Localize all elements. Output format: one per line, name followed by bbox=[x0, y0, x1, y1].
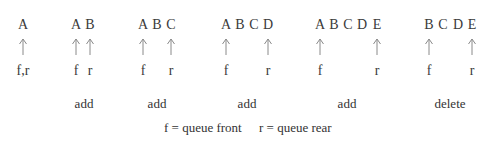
front-rear-pointer-label: f,r bbox=[17, 64, 30, 78]
up-arrow-icon bbox=[166, 38, 176, 56]
front-pointer-label: f bbox=[427, 64, 432, 78]
front-pointer-label: f bbox=[318, 64, 323, 78]
up-arrow-icon bbox=[221, 38, 231, 56]
queue-element: A bbox=[315, 18, 325, 32]
up-arrow-icon bbox=[424, 38, 434, 56]
queue-element: B bbox=[152, 18, 161, 32]
queue-element: C bbox=[249, 18, 258, 32]
queue-element: C bbox=[166, 18, 175, 32]
up-arrow-icon bbox=[85, 38, 95, 56]
operation-label: add bbox=[75, 97, 94, 110]
up-arrow-icon bbox=[372, 38, 382, 56]
queue-element: A bbox=[18, 18, 28, 32]
operation-label: add bbox=[238, 97, 257, 110]
up-arrow-icon bbox=[263, 38, 273, 56]
operation-label: delete bbox=[434, 97, 465, 110]
queue-element: B bbox=[329, 18, 338, 32]
front-pointer-label: f bbox=[224, 64, 229, 78]
rear-pointer-label: r bbox=[88, 64, 93, 78]
queue-element: E bbox=[468, 18, 477, 32]
queue-element: C bbox=[343, 18, 352, 32]
queue-element: B bbox=[85, 18, 94, 32]
queue-element: D bbox=[453, 18, 463, 32]
front-pointer-label: f bbox=[74, 64, 79, 78]
queue-element: A bbox=[71, 18, 81, 32]
legend-rear: r = queue rear bbox=[259, 121, 332, 134]
up-arrow-icon bbox=[71, 38, 81, 56]
legend-front: f = queue front bbox=[164, 121, 242, 134]
front-pointer-label: f bbox=[141, 64, 146, 78]
operation-label: add bbox=[148, 97, 167, 110]
up-arrow-icon bbox=[138, 38, 148, 56]
up-arrow-icon bbox=[18, 38, 28, 56]
rear-pointer-label: r bbox=[266, 64, 271, 78]
queue-element: D bbox=[263, 18, 273, 32]
rear-pointer-label: r bbox=[375, 64, 380, 78]
queue-element: B bbox=[235, 18, 244, 32]
queue-element: D bbox=[357, 18, 367, 32]
queue-element: A bbox=[138, 18, 148, 32]
queue-element: E bbox=[373, 18, 382, 32]
rear-pointer-label: r bbox=[470, 64, 475, 78]
queue-element: A bbox=[221, 18, 231, 32]
queue-element: B bbox=[424, 18, 433, 32]
up-arrow-icon bbox=[467, 38, 477, 56]
queue-element: C bbox=[438, 18, 447, 32]
operation-label: add bbox=[338, 97, 357, 110]
rear-pointer-label: r bbox=[169, 64, 174, 78]
up-arrow-icon bbox=[315, 38, 325, 56]
